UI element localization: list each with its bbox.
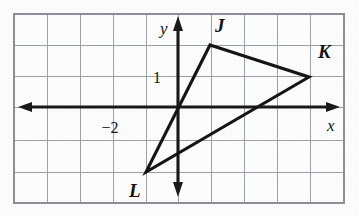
y-axis-label: y — [158, 19, 168, 38]
vertex-label-j: J — [214, 15, 225, 36]
tick-label-y-one: 1 — [153, 69, 161, 86]
vertex-label-k: K — [317, 41, 332, 62]
vertex-label-l: L — [128, 180, 141, 201]
coordinate-plane: J K L y x 1 −2 — [0, 0, 359, 216]
tick-label-x-minus-two: −2 — [101, 119, 118, 136]
figure-container: J K L y x 1 −2 — [0, 0, 359, 216]
x-axis-label: x — [326, 116, 335, 135]
